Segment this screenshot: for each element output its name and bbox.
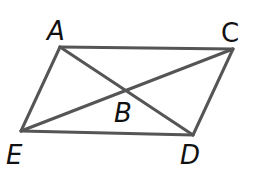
label-a: A — [45, 16, 65, 46]
side-de — [21, 131, 193, 135]
label-c: C — [221, 18, 239, 48]
parallelogram-diagram: A C B E D — [0, 0, 254, 178]
label-d: D — [180, 140, 200, 170]
diagram-svg: A C B E D — [0, 0, 254, 178]
side-ac — [60, 47, 233, 49]
label-e: E — [6, 140, 23, 170]
label-b: B — [114, 98, 132, 128]
